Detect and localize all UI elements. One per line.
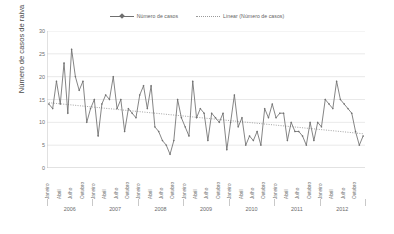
x-axis-tick-label: Abril xyxy=(57,190,62,199)
y-axis-tick-30: 30 xyxy=(27,28,45,34)
series-marker xyxy=(112,76,114,78)
y-axis-tick-labels: 302520151050 xyxy=(26,0,45,234)
series-marker xyxy=(271,103,273,105)
series-marker xyxy=(177,99,179,101)
series-marker xyxy=(336,80,338,82)
x-axis-tick-label: Janeiro xyxy=(227,183,232,199)
year-label-2011: 2011 xyxy=(274,206,319,212)
dotted-line-sample-icon xyxy=(196,13,220,19)
legend-item-trendline[interactable]: Linear (Número de casos) xyxy=(196,13,284,19)
x-axis-tick-label: Abril xyxy=(102,190,107,199)
year-separator xyxy=(183,199,184,206)
year-separator xyxy=(274,199,275,206)
series-line-path xyxy=(49,49,363,154)
series-marker xyxy=(97,135,99,137)
x-axis-year-band: 2006200720082009201020112012 xyxy=(47,199,365,215)
series-marker xyxy=(63,62,65,64)
series-marker xyxy=(286,140,288,142)
legend-item-series[interactable]: Número de casos xyxy=(110,13,178,19)
series-marker xyxy=(74,76,76,78)
x-axis-tick-label: Abril xyxy=(329,190,334,199)
year-separator xyxy=(92,199,93,206)
x-axis-tick-label: Abril xyxy=(239,190,244,199)
x-axis-tick-label: Outubro xyxy=(80,182,85,199)
year-label-2007: 2007 xyxy=(92,206,137,212)
series-marker xyxy=(233,94,235,96)
chart-legend: Número de casos Linear (Número de casos) xyxy=(0,9,394,23)
y-axis-tick-5: 5 xyxy=(27,142,45,148)
series-marker xyxy=(146,108,148,110)
x-axis-tick-label: Outubro xyxy=(125,182,130,199)
year-label-2006: 2006 xyxy=(47,206,92,212)
x-axis-tick-label: Julho xyxy=(250,188,255,199)
y-axis-tick-25: 25 xyxy=(27,51,45,57)
legend-label-trendline: Linear (Número de casos) xyxy=(223,13,284,19)
legend-label-series: Número de casos xyxy=(137,13,178,19)
year-label-2008: 2008 xyxy=(138,206,183,212)
series-markers xyxy=(48,48,364,155)
series-marker xyxy=(71,48,73,50)
series-marker xyxy=(124,131,126,133)
plot-area xyxy=(47,31,365,168)
x-axis-tick-label: Outubro xyxy=(261,182,266,199)
y-axis-tick-15: 15 xyxy=(27,97,45,103)
x-axis-tick-label: Julho xyxy=(341,188,346,199)
series-marker xyxy=(192,80,194,82)
year-label-2009: 2009 xyxy=(183,206,228,212)
x-axis-tick-label: Janeiro xyxy=(91,183,96,199)
x-axis-tick-label: Outubro xyxy=(216,182,221,199)
chart-container: Número de casos Linear (Número de casos)… xyxy=(0,0,394,234)
x-axis-tick-label: Outubro xyxy=(170,182,175,199)
series-marker xyxy=(283,112,285,114)
year-separator xyxy=(138,199,139,206)
x-axis-tick-label: Abril xyxy=(284,190,289,199)
x-axis-tick-label: Janeiro xyxy=(45,183,50,199)
year-label-2010: 2010 xyxy=(229,206,274,212)
x-axis-tick-label: Julho xyxy=(159,188,164,199)
year-separator xyxy=(320,199,321,206)
year-separator xyxy=(229,199,230,206)
series-marker xyxy=(313,140,315,142)
series-marker xyxy=(56,80,58,82)
x-axis-tick-label: Outubro xyxy=(352,182,357,199)
year-label-2012: 2012 xyxy=(320,206,365,212)
series-marker xyxy=(173,140,175,142)
y-axis-tick-10: 10 xyxy=(27,119,45,125)
chart-svg xyxy=(47,31,365,168)
x-axis-tick-label: Janeiro xyxy=(273,183,278,199)
x-axis-tick-label: Julho xyxy=(68,188,73,199)
year-separator xyxy=(365,199,366,206)
series-marker xyxy=(67,112,69,114)
x-axis-tick-label: Abril xyxy=(193,190,198,199)
series-marker xyxy=(260,144,262,146)
series-marker xyxy=(150,85,152,87)
series-marker xyxy=(86,121,88,123)
x-axis-tick-label: Julho xyxy=(114,188,119,199)
x-axis-tick-label: Julho xyxy=(204,188,209,199)
series-marker xyxy=(230,121,232,123)
x-axis-tick-labels: JaneiroAbrilJulhoOutubroJaneiroAbrilJulh… xyxy=(47,169,365,199)
x-axis-tick-label: Abril xyxy=(148,190,153,199)
x-axis-tick-label: Janeiro xyxy=(182,183,187,199)
series-marker xyxy=(59,103,61,105)
y-axis-tick-0: 0 xyxy=(27,165,45,171)
line-marker-sample-icon xyxy=(110,13,134,19)
x-axis-tick-label: Janeiro xyxy=(318,183,323,199)
x-axis-tick-label: Janeiro xyxy=(136,183,141,199)
x-axis-tick-label: Outubro xyxy=(307,182,312,199)
y-axis-tick-20: 20 xyxy=(27,74,45,80)
series-marker xyxy=(226,149,228,151)
series-marker xyxy=(355,131,357,133)
series-marker xyxy=(207,140,209,142)
series-marker xyxy=(309,121,311,123)
year-separator xyxy=(47,199,48,206)
x-axis-tick-label: Julho xyxy=(295,188,300,199)
